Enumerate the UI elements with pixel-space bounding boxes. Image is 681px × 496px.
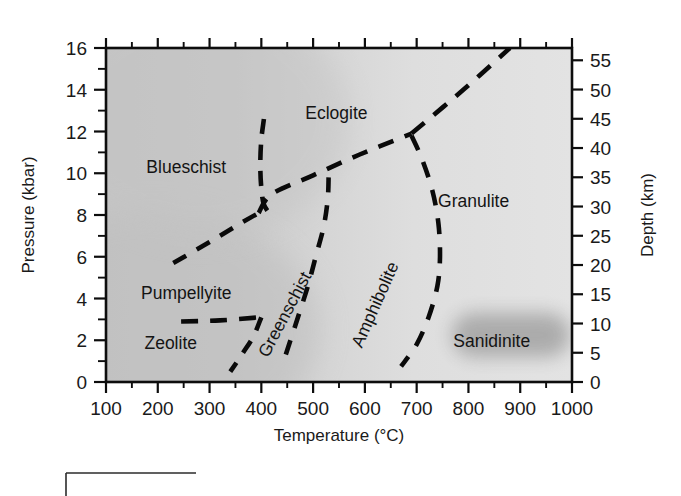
y-tick-label: 4 xyxy=(76,289,87,310)
facies-label-pumpellyite: Pumpellyite xyxy=(141,283,231,303)
y-tick-label: 12 xyxy=(66,122,87,143)
depth-tick-label: 45 xyxy=(590,109,611,130)
x-tick-label: 900 xyxy=(504,398,536,419)
depth-tick-label: 5 xyxy=(590,343,601,364)
x-tick-label: 400 xyxy=(245,398,277,419)
facies-label-zeolite: Zeolite xyxy=(144,333,197,353)
depth-tick-label: 20 xyxy=(590,255,611,276)
x-tick-label: 200 xyxy=(142,398,174,419)
depth-tick-label: 25 xyxy=(590,226,611,247)
depth-tick-label: 55 xyxy=(590,50,611,71)
facies-label-sanidinite: Sanidinite xyxy=(453,331,530,351)
depth-tick-label: 40 xyxy=(590,138,611,159)
depth-tick-label: 30 xyxy=(590,197,611,218)
depth-tick-label: 15 xyxy=(590,284,611,305)
metamorphic-facies-diagram: 1002003004005006007008009001000 02468101… xyxy=(0,0,681,496)
x-tick-label: 800 xyxy=(453,398,485,419)
x-tick-label: 300 xyxy=(194,398,226,419)
y-tick-label: 8 xyxy=(76,205,87,226)
facies-label-granulite: Granulite xyxy=(438,191,509,211)
y-tick-label: 14 xyxy=(66,80,88,101)
x-tick-label: 100 xyxy=(90,398,122,419)
depth-axis-title: Depth (km) xyxy=(638,173,657,257)
y-tick-label: 2 xyxy=(76,330,87,351)
depth-tick-label: 10 xyxy=(590,314,611,335)
y-tick-label: 6 xyxy=(76,247,87,268)
y-tick-label: 0 xyxy=(76,372,87,393)
depth-tick-label: 35 xyxy=(590,167,611,188)
facies-label-eclogite: Eclogite xyxy=(305,103,367,123)
x-tick-label: 500 xyxy=(297,398,329,419)
facies-label-blueschist: Blueschist xyxy=(146,157,226,177)
x-axis-title: Temperature (°C) xyxy=(274,426,405,445)
y-tick-label: 16 xyxy=(66,38,87,59)
y-axis-title: Pressure (kbar) xyxy=(19,156,38,273)
y-tick-label: 10 xyxy=(66,163,87,184)
x-tick-label: 600 xyxy=(349,398,381,419)
depth-tick-label: 0 xyxy=(590,372,601,393)
x-tick-label: 1000 xyxy=(551,398,593,419)
x-tick-label: 700 xyxy=(401,398,433,419)
depth-tick-label: 50 xyxy=(590,80,611,101)
